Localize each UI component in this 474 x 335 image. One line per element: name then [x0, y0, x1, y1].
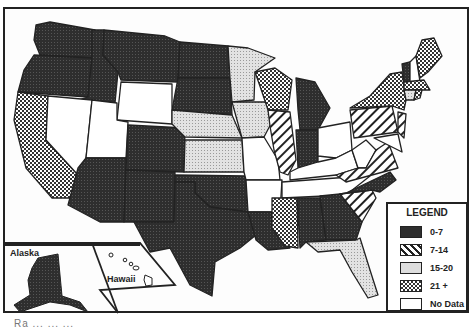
legend-item-no-data: No Data: [400, 297, 464, 311]
checker-swatch-icon: [400, 280, 422, 292]
state-NM: [124, 170, 175, 222]
alaska-label: Alaska: [10, 248, 39, 258]
light-swatch-icon: [400, 262, 422, 274]
legend-item-7-14: 7-14: [400, 243, 448, 257]
state-CO: [126, 125, 185, 172]
legend-item-15-20: 15-20: [400, 261, 453, 275]
state-WA: [34, 22, 95, 58]
state-VT: [402, 62, 410, 82]
state-IN: [296, 130, 318, 168]
legend: LEGEND 0-7 7-14 15-20 21 + No Data: [386, 202, 468, 312]
state-OR: [18, 55, 92, 97]
hatch-swatch-icon: [400, 244, 422, 256]
legend-item-0-7: 0-7: [400, 225, 443, 239]
dark-swatch-icon: [400, 226, 422, 238]
blank-swatch-icon: [400, 298, 422, 310]
state-MA: [404, 80, 430, 90]
state-MI: [296, 78, 330, 130]
footer-text: Ra ... ... ...: [14, 318, 74, 329]
legend-title: LEGEND: [388, 207, 466, 218]
state-FL: [306, 238, 378, 298]
state-NY: [350, 72, 406, 110]
state-WY: [117, 82, 172, 124]
state-NJ: [398, 112, 406, 138]
state-SD: [172, 78, 232, 115]
state-RI: [414, 90, 422, 100]
hawaii-label: Hawaii: [107, 274, 136, 284]
state-PA: [350, 106, 398, 138]
legend-item-21-plus: 21 +: [400, 279, 448, 293]
state-KS: [184, 140, 244, 172]
state-ME: [416, 38, 442, 78]
state-AK: [14, 254, 88, 312]
state-ND: [178, 42, 230, 78]
